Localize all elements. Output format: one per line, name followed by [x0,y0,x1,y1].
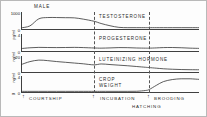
axis-unit-luteinizing-hormone: ng/ml [11,73,16,83]
series-label-crop-weight-line2: WEIGHT [99,83,122,88]
stage-label-incubation: INCUBATION [100,96,135,101]
panel-crop-weight: 4 0 g CROP WEIGHT [21,76,199,93]
series-label-progesterone: PROGESTERONE [99,36,147,42]
series-label-crop-weight: CROP WEIGHT [99,77,122,88]
panel-testosterone: 1000 0 pg/ml TESTOSTERONE [21,12,199,30]
stage-label-brooding: BROODING [154,96,185,101]
series-label-testosterone: TESTOSTERONE [99,14,146,20]
series-label-luteinizing-hormone: LUTEINIZING HORMONE [99,57,168,63]
stage-label-courtship: COURTSHIP [29,96,62,101]
axis-max-crop-weight: 4 [18,75,20,80]
stage-axis: ↑ COURTSHIP ↑ INCUBATION ↑ BROODING [1,94,207,103]
panel-progesterone: 4 0 ng/ml PROGESTERONE [21,34,199,52]
axis-unit-testosterone: pg/ml [11,30,16,40]
hormone-profile-figure: MALE 1000 0 pg/ml TESTOSTERONE 4 0 ng/ml… [0,0,207,117]
arrow-incubation-start: ↑ [92,94,95,100]
arrow-courtship-start: ↑ [22,94,25,100]
axis-max-testosterone: 1000 [11,11,20,16]
series-label-crop-weight-line1: CROP [99,77,115,82]
axis-max-progesterone: 4 [18,33,20,38]
axis-max-luteinizing-hormone: 20 [15,55,20,60]
figure-title: MALE [34,4,50,9]
stage-divider-courtship-incubation [94,12,95,93]
arrow-hatching: ↑ [147,94,150,100]
stage-divider-incubation-brooding [149,12,150,93]
stage-label-hatching: HATCHING [132,104,161,109]
panel-luteinizing-hormone: 20 0 ng/ml LUTEINIZING HORMONE [21,56,199,73]
